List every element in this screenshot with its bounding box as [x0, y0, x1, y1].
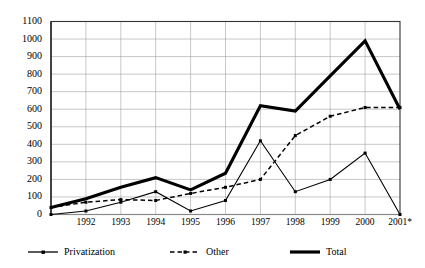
legend-point-marker — [184, 251, 187, 254]
data-point-marker — [329, 115, 332, 118]
data-point-marker — [329, 178, 332, 181]
y-axis-tick-label: 800 — [2, 69, 42, 79]
legend-point-marker — [42, 251, 45, 254]
y-axis-tick-label: 200 — [2, 174, 42, 184]
y-axis-tick-label: 300 — [2, 156, 42, 166]
y-axis-tick-label: 100 — [2, 191, 42, 201]
data-point-marker — [189, 192, 192, 195]
data-point-marker — [294, 134, 297, 137]
data-point-marker — [259, 139, 262, 142]
x-axis-tick-label: 2001* — [378, 217, 422, 227]
data-point-marker — [224, 186, 227, 189]
data-point-marker — [154, 199, 157, 202]
y-axis-tick-label: 600 — [2, 104, 42, 114]
data-point-marker — [364, 106, 367, 109]
y-axis-tick-label: 0 — [2, 209, 42, 219]
y-axis-tick-label: 500 — [2, 121, 42, 131]
legend-marker-privatization — [26, 244, 60, 260]
y-axis-tick-label: 900 — [2, 51, 42, 61]
legend-label: Total — [326, 244, 346, 260]
y-axis-tick-label: 1000 — [2, 34, 42, 44]
line-chart-plot — [0, 0, 425, 268]
data-point-marker — [364, 152, 367, 155]
data-point-marker — [119, 198, 122, 201]
legend-label: Other — [206, 244, 229, 260]
legend-marker-other — [168, 244, 202, 260]
data-point-marker — [224, 199, 227, 202]
data-point-marker — [84, 201, 87, 204]
chart-container: 110010009008007006005004003002001000 199… — [0, 0, 425, 268]
y-axis-tick-label: 700 — [2, 86, 42, 96]
data-point-marker — [84, 209, 87, 212]
data-point-marker — [294, 190, 297, 193]
legend-marker-total — [288, 244, 322, 260]
data-point-marker — [119, 201, 122, 204]
y-axis-tick-label: 1100 — [2, 16, 42, 26]
y-axis-tick-label: 400 — [2, 139, 42, 149]
legend-label: Privatization — [64, 244, 115, 260]
data-point-marker — [50, 213, 53, 216]
data-point-marker — [399, 213, 402, 216]
data-point-marker — [259, 178, 262, 181]
data-point-marker — [154, 190, 157, 193]
data-point-marker — [189, 209, 192, 212]
chart-legend: PrivatizationOtherTotal — [26, 244, 356, 262]
